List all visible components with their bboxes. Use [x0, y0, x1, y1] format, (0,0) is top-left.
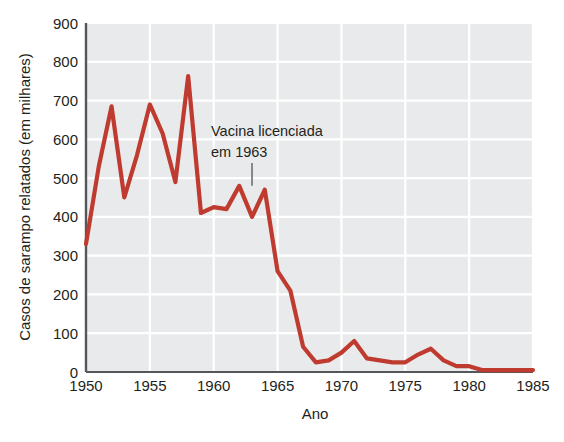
x-tick-label: 1955 — [133, 377, 166, 394]
y-tick-label: 800 — [53, 53, 78, 70]
y-axis-tick-labels: 0100200300400500600700800900 — [53, 15, 78, 381]
x-axis-title: Ano — [302, 405, 329, 422]
y-tick-label: 300 — [53, 247, 78, 264]
y-tick-label: 400 — [53, 208, 78, 225]
plot-area-background — [86, 23, 533, 372]
x-tick-label: 1975 — [389, 377, 422, 394]
x-tick-label: 1950 — [69, 377, 102, 394]
x-tick-label: 1980 — [452, 377, 485, 394]
x-tick-label: 1985 — [516, 377, 549, 394]
y-tick-label: 600 — [53, 131, 78, 148]
x-tick-label: 1960 — [197, 377, 230, 394]
chart-canvas: 0100200300400500600700800900 19501955196… — [0, 0, 564, 442]
measles-cases-chart-figure: 0100200300400500600700800900 19501955196… — [0, 0, 564, 442]
x-axis-tick-labels: 19501955196019651970197519801985 — [69, 377, 549, 394]
y-tick-label: 500 — [53, 170, 78, 187]
annotation-line-2: em 1963 — [211, 144, 267, 160]
y-axis-title: Casos de sarampo relatados (em milhares) — [16, 53, 33, 341]
y-tick-label: 200 — [53, 286, 78, 303]
y-tick-label: 700 — [53, 92, 78, 109]
x-tick-label: 1965 — [261, 377, 294, 394]
annotation-line-1: Vacina licenciada — [211, 123, 324, 139]
y-tick-label: 100 — [53, 325, 78, 342]
x-tick-label: 1970 — [325, 377, 358, 394]
y-tick-label: 900 — [53, 15, 78, 32]
